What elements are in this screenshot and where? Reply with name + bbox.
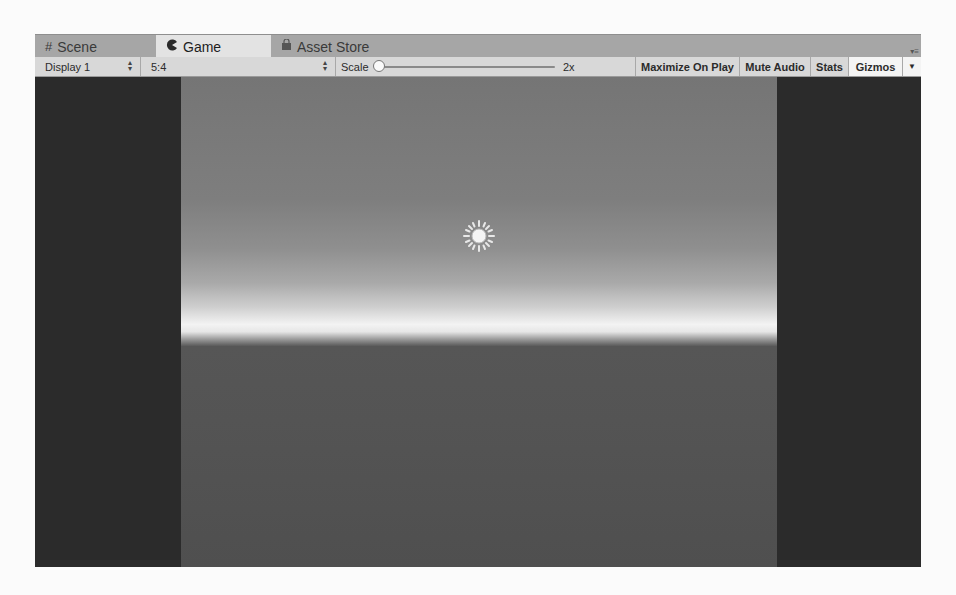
- game-view-render[interactable]: [181, 77, 777, 567]
- scale-value: 2x: [563, 57, 593, 76]
- updown-arrows-icon: ▴▾: [323, 60, 327, 72]
- tab-label: Asset Store: [297, 39, 369, 55]
- aspect-value: 5:4: [151, 61, 166, 73]
- tab-label: Game: [183, 39, 221, 55]
- game-toolbar: Display 1 ▴▾ 5:4 ▴▾ Scale 2x Maximize On…: [35, 57, 921, 77]
- grid-icon: #: [45, 39, 52, 54]
- scale-slider-track[interactable]: [375, 66, 555, 68]
- stats-button[interactable]: Stats: [810, 57, 848, 76]
- shopping-bag-icon: [281, 39, 292, 54]
- tab-game[interactable]: Game: [156, 35, 271, 58]
- tab-asset-store[interactable]: Asset Store: [271, 35, 401, 58]
- gizmos-button[interactable]: Gizmos: [848, 57, 902, 76]
- mute-audio-button[interactable]: Mute Audio: [739, 57, 810, 76]
- scale-slider-thumb[interactable]: [373, 60, 385, 72]
- letterbox-left: [35, 77, 181, 567]
- directional-light-icon: [463, 220, 495, 252]
- display-value: Display 1: [45, 61, 90, 73]
- game-viewport[interactable]: [35, 77, 921, 567]
- panel-menu-icon[interactable]: ▾≡: [910, 47, 919, 56]
- display-dropdown[interactable]: Display 1 ▴▾: [35, 57, 141, 76]
- aspect-dropdown[interactable]: 5:4 ▴▾: [141, 57, 336, 76]
- game-window: # Scene Game Asset Store ▾≡ Display 1 ▴▾…: [35, 34, 921, 567]
- pacman-icon: [166, 39, 178, 54]
- letterbox-right: [777, 77, 921, 567]
- tab-bar: # Scene Game Asset Store ▾≡: [35, 34, 921, 57]
- maximize-on-play-button[interactable]: Maximize On Play: [635, 57, 739, 76]
- tab-scene[interactable]: # Scene: [35, 35, 156, 58]
- updown-arrows-icon: ▴▾: [128, 60, 132, 72]
- gizmos-dropdown-button[interactable]: ▼: [902, 57, 921, 76]
- tab-label: Scene: [57, 39, 97, 55]
- scale-label: Scale: [337, 57, 377, 76]
- triangle-down-icon: ▼: [908, 62, 916, 71]
